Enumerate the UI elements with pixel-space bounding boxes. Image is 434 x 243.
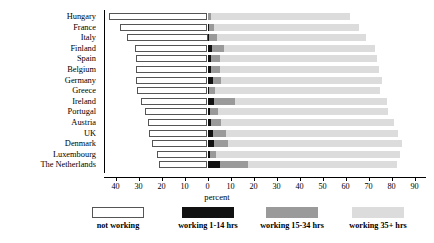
x-axis-tick-label: 80 bbox=[380, 182, 404, 191]
bar-segment-working-15-34-hrs bbox=[220, 161, 248, 168]
bar-row bbox=[0, 24, 434, 31]
bar-segment-working-15-34-hrs bbox=[211, 119, 221, 126]
legend-swatch-1-14-hrs bbox=[182, 207, 234, 218]
legend-swatch-15-34-hrs bbox=[266, 207, 318, 218]
bar-segment-working-35-plus-hrs bbox=[214, 24, 359, 31]
bar-segment-working-15-34-hrs bbox=[214, 98, 235, 105]
bar-row bbox=[0, 87, 434, 94]
x-axis-tick-label: 10 bbox=[219, 182, 243, 191]
bar-segment-working-15-34-hrs bbox=[209, 34, 216, 41]
x-axis-tick bbox=[116, 177, 117, 181]
bar-segment-not-working bbox=[157, 151, 208, 158]
x-axis-tick-label: 20 bbox=[242, 182, 266, 191]
bar-segment-working-15-34-hrs bbox=[214, 140, 228, 147]
x-axis-tick bbox=[208, 177, 209, 181]
bar-segment-not-working bbox=[135, 45, 207, 52]
bar-row bbox=[0, 161, 434, 168]
bar-row bbox=[0, 66, 434, 73]
x-axis-tick-label: 50 bbox=[311, 182, 335, 191]
legend-swatch-not-working bbox=[92, 207, 144, 218]
bar-segment-working-1-14-hrs bbox=[208, 140, 215, 147]
bar-row bbox=[0, 34, 434, 41]
x-axis-tick bbox=[346, 177, 347, 181]
stacked-bar-chart: HungaryFranceItalyFinlandSpainBelgiumGer… bbox=[0, 0, 434, 243]
x-axis-tick bbox=[392, 177, 393, 181]
x-axis-tick-label: 0 bbox=[196, 182, 220, 191]
bar-segment-working-15-34-hrs bbox=[213, 130, 225, 137]
bar-row bbox=[0, 108, 434, 115]
bar-segment-not-working bbox=[159, 161, 207, 168]
x-axis-tick bbox=[162, 177, 163, 181]
x-axis-tick-label: 40 bbox=[104, 182, 128, 191]
legend-label: working 15-34 hrs bbox=[260, 221, 324, 230]
x-axis-tick-label: 70 bbox=[357, 182, 381, 191]
bar-segment-not-working bbox=[136, 66, 207, 73]
x-axis-tick-label: 30 bbox=[127, 182, 151, 191]
x-axis-tick-label: 10 bbox=[173, 182, 197, 191]
bar-segment-working-35-plus-hrs bbox=[215, 87, 381, 94]
bar-row bbox=[0, 130, 434, 137]
x-axis-tick-label: 40 bbox=[288, 182, 312, 191]
bar-segment-working-35-plus-hrs bbox=[226, 130, 399, 137]
legend-label: not working bbox=[97, 221, 140, 230]
bar-segment-not-working bbox=[109, 13, 208, 20]
bar-segment-working-35-plus-hrs bbox=[221, 77, 382, 84]
bar-segment-not-working bbox=[127, 34, 208, 41]
bar-segment-working-35-plus-hrs bbox=[248, 161, 398, 168]
bar-segment-working-1-14-hrs bbox=[208, 98, 215, 105]
chart-legend: not workingworking 1-14 hrsworking 15-34… bbox=[0, 207, 434, 241]
bar-segment-working-35-plus-hrs bbox=[220, 55, 376, 62]
x-axis-tick bbox=[415, 177, 416, 181]
bar-row bbox=[0, 119, 434, 126]
bar-row bbox=[0, 140, 434, 147]
x-axis-tick bbox=[300, 177, 301, 181]
x-axis-title: percent bbox=[0, 192, 434, 202]
bar-segment-working-35-plus-hrs bbox=[218, 108, 388, 115]
bar-segment-working-35-plus-hrs bbox=[235, 98, 387, 105]
bar-segment-working-15-34-hrs bbox=[212, 45, 224, 52]
bar-row bbox=[0, 151, 434, 158]
x-axis-tick bbox=[323, 177, 324, 181]
bar-row bbox=[0, 45, 434, 52]
bar-segment-working-35-plus-hrs bbox=[221, 119, 394, 126]
x-axis-tick-label: 30 bbox=[265, 182, 289, 191]
bar-segment-not-working bbox=[152, 140, 207, 147]
bar-segment-working-15-34-hrs bbox=[210, 108, 217, 115]
bar-segment-working-35-plus-hrs bbox=[228, 140, 402, 147]
bar-segment-not-working bbox=[145, 108, 207, 115]
bar-segment-not-working bbox=[137, 87, 207, 94]
bar-segment-working-35-plus-hrs bbox=[224, 45, 376, 52]
bar-row bbox=[0, 77, 434, 84]
x-axis-tick bbox=[254, 177, 255, 181]
legend-label: working 1-14 hrs bbox=[178, 221, 238, 230]
x-axis-tick-label: 90 bbox=[403, 182, 427, 191]
x-axis-tick-label: 60 bbox=[334, 182, 358, 191]
bar-segment-not-working bbox=[149, 130, 208, 137]
x-axis-tick bbox=[369, 177, 370, 181]
bar-segment-working-15-34-hrs bbox=[211, 66, 220, 73]
bar-segment-working-35-plus-hrs bbox=[220, 66, 379, 73]
bar-row bbox=[0, 98, 434, 105]
bar-row bbox=[0, 55, 434, 62]
x-axis-tick bbox=[139, 177, 140, 181]
legend-label: working 35+ hrs bbox=[349, 221, 406, 230]
bar-segment-not-working bbox=[141, 98, 208, 105]
x-axis-tick-label: 20 bbox=[150, 182, 174, 191]
bar-segment-working-15-34-hrs bbox=[213, 77, 221, 84]
x-axis-tick bbox=[277, 177, 278, 181]
bar-segment-working-35-plus-hrs bbox=[211, 13, 350, 20]
bar-segment-working-1-14-hrs bbox=[208, 161, 221, 168]
legend-swatch-35-plus-hrs bbox=[352, 207, 404, 218]
bar-segment-working-35-plus-hrs bbox=[217, 34, 367, 41]
x-axis-tick bbox=[185, 177, 186, 181]
bar-segment-not-working bbox=[120, 24, 207, 31]
x-axis-line bbox=[104, 177, 426, 178]
bar-segment-not-working bbox=[136, 77, 207, 84]
bar-segment-working-15-34-hrs bbox=[211, 55, 220, 62]
x-axis-tick bbox=[231, 177, 232, 181]
bar-segment-not-working bbox=[148, 119, 208, 126]
bar-segment-not-working bbox=[136, 55, 207, 62]
bar-row bbox=[0, 13, 434, 20]
bar-segment-working-35-plus-hrs bbox=[216, 151, 400, 158]
